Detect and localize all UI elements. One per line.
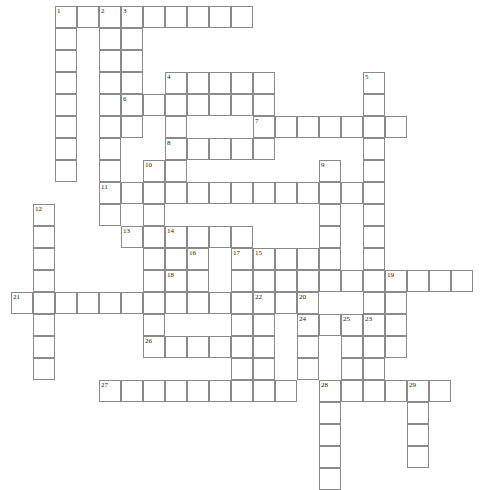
crossword-cell[interactable] — [341, 358, 363, 380]
crossword-cell[interactable] — [55, 50, 77, 72]
crossword-cell[interactable] — [407, 446, 429, 468]
crossword-cell[interactable] — [77, 292, 99, 314]
crossword-cell-numbered-29[interactable]: 29 — [407, 380, 429, 402]
crossword-cell[interactable] — [187, 94, 209, 116]
crossword-cell[interactable] — [363, 292, 385, 314]
crossword-cell[interactable] — [363, 182, 385, 204]
crossword-cell-numbered-16[interactable]: 16 — [187, 248, 209, 270]
crossword-cell[interactable] — [231, 292, 253, 314]
crossword-cell-numbered-20[interactable]: 20 — [297, 292, 319, 314]
crossword-cell[interactable] — [143, 270, 165, 292]
crossword-cell[interactable] — [165, 6, 187, 28]
crossword-cell[interactable] — [363, 380, 385, 402]
crossword-cell[interactable] — [341, 270, 363, 292]
crossword-cell-numbered-4[interactable]: 4 — [165, 72, 187, 94]
crossword-cell[interactable] — [187, 138, 209, 160]
crossword-cell[interactable] — [319, 446, 341, 468]
crossword-cell[interactable] — [275, 182, 297, 204]
crossword-cell[interactable] — [253, 336, 275, 358]
crossword-cell[interactable] — [297, 182, 319, 204]
crossword-cell[interactable] — [33, 248, 55, 270]
crossword-cell[interactable] — [319, 182, 341, 204]
crossword-cell-numbered-23[interactable]: 23 — [363, 314, 385, 336]
crossword-cell[interactable] — [363, 94, 385, 116]
crossword-cell[interactable] — [165, 292, 187, 314]
crossword-cell[interactable] — [187, 292, 209, 314]
crossword-cell[interactable] — [231, 226, 253, 248]
crossword-cell[interactable] — [253, 94, 275, 116]
crossword-cell-numbered-21[interactable]: 21 — [11, 292, 33, 314]
crossword-cell[interactable] — [187, 6, 209, 28]
crossword-cell[interactable] — [187, 72, 209, 94]
crossword-cell[interactable] — [385, 336, 407, 358]
crossword-cell[interactable] — [385, 380, 407, 402]
crossword-cell[interactable] — [187, 380, 209, 402]
crossword-cell[interactable] — [275, 116, 297, 138]
crossword-cell[interactable] — [121, 28, 143, 50]
crossword-cell[interactable] — [319, 468, 341, 490]
crossword-cell[interactable] — [143, 380, 165, 402]
crossword-cell[interactable] — [55, 138, 77, 160]
crossword-cell[interactable] — [99, 138, 121, 160]
crossword-cell[interactable] — [33, 358, 55, 380]
crossword-cell[interactable] — [363, 160, 385, 182]
crossword-cell[interactable] — [55, 72, 77, 94]
crossword-cell-numbered-10[interactable]: 10 — [143, 160, 165, 182]
crossword-cell-numbered-15[interactable]: 15 — [253, 248, 275, 270]
crossword-cell[interactable] — [297, 270, 319, 292]
crossword-cell[interactable] — [143, 314, 165, 336]
crossword-cell-numbered-26[interactable]: 26 — [143, 336, 165, 358]
crossword-cell[interactable] — [33, 226, 55, 248]
crossword-cell[interactable] — [341, 380, 363, 402]
crossword-cell[interactable] — [121, 72, 143, 94]
crossword-cell[interactable] — [297, 336, 319, 358]
crossword-cell[interactable] — [165, 160, 187, 182]
crossword-cell-numbered-27[interactable]: 27 — [99, 380, 121, 402]
crossword-cell-numbered-9[interactable]: 9 — [319, 160, 341, 182]
crossword-cell[interactable] — [275, 248, 297, 270]
crossword-cell[interactable] — [99, 94, 121, 116]
crossword-cell[interactable] — [275, 292, 297, 314]
crossword-cell[interactable] — [209, 380, 231, 402]
crossword-cell[interactable] — [99, 28, 121, 50]
crossword-cell[interactable] — [297, 116, 319, 138]
crossword-cell[interactable] — [429, 270, 451, 292]
crossword-cell[interactable] — [253, 270, 275, 292]
crossword-cell[interactable] — [363, 248, 385, 270]
crossword-cell[interactable] — [187, 336, 209, 358]
crossword-cell[interactable] — [319, 226, 341, 248]
crossword-cell[interactable] — [209, 336, 231, 358]
crossword-cell[interactable] — [231, 6, 253, 28]
crossword-cell[interactable] — [187, 226, 209, 248]
crossword-cell[interactable] — [165, 94, 187, 116]
crossword-cell-numbered-13[interactable]: 13 — [121, 226, 143, 248]
crossword-cell[interactable] — [363, 358, 385, 380]
crossword-cell[interactable] — [143, 204, 165, 226]
crossword-cell-numbered-19[interactable]: 19 — [385, 270, 407, 292]
crossword-cell[interactable] — [55, 28, 77, 50]
crossword-cell[interactable] — [33, 292, 55, 314]
crossword-cell[interactable] — [275, 380, 297, 402]
crossword-cell-numbered-18[interactable]: 18 — [165, 270, 187, 292]
crossword-cell-numbered-12[interactable]: 12 — [33, 204, 55, 226]
crossword-cell[interactable] — [319, 270, 341, 292]
crossword-cell[interactable] — [363, 204, 385, 226]
crossword-cell[interactable] — [363, 138, 385, 160]
crossword-cell[interactable] — [231, 72, 253, 94]
crossword-cell[interactable] — [143, 248, 165, 270]
crossword-cell[interactable] — [253, 358, 275, 380]
crossword-cell-numbered-28[interactable]: 28 — [319, 380, 341, 402]
crossword-cell[interactable] — [143, 182, 165, 204]
crossword-cell[interactable] — [297, 248, 319, 270]
crossword-cell[interactable] — [451, 270, 473, 292]
crossword-cell[interactable] — [55, 292, 77, 314]
crossword-cell[interactable] — [429, 380, 451, 402]
crossword-cell[interactable] — [253, 380, 275, 402]
crossword-cell[interactable] — [33, 314, 55, 336]
crossword-cell-numbered-25[interactable]: 25 — [341, 314, 363, 336]
crossword-cell[interactable] — [121, 50, 143, 72]
crossword-cell[interactable] — [319, 204, 341, 226]
crossword-cell-numbered-3[interactable]: 3 — [121, 6, 143, 28]
crossword-cell[interactable] — [143, 6, 165, 28]
crossword-cell[interactable] — [99, 204, 121, 226]
